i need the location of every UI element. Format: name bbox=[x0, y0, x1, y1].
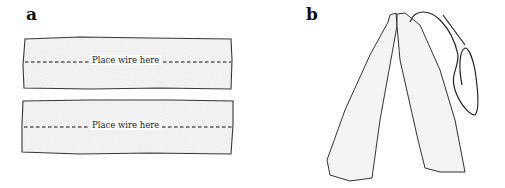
folded-strips bbox=[327, 13, 465, 181]
wire-label-2: Place wire here bbox=[90, 120, 161, 130]
diagram-drawing bbox=[0, 0, 505, 188]
wire-label-1: Place wire here bbox=[90, 55, 161, 65]
